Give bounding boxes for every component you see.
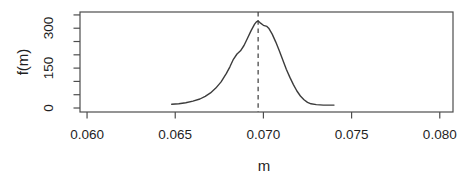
y-axis-title: f(m) bbox=[14, 49, 31, 76]
x-tick-label: 0.065 bbox=[158, 127, 192, 142]
x-tick-label: 0.075 bbox=[335, 127, 369, 142]
x-axis-title: m bbox=[258, 157, 271, 174]
x-tick-label: 0.070 bbox=[247, 127, 281, 142]
density-plot-figure: f(m) m 0.0600.0650.0700.0750.0800150300 bbox=[0, 0, 475, 178]
x-tick-label: 0.080 bbox=[423, 127, 457, 142]
y-tick-label: 300 bbox=[41, 17, 56, 40]
y-tick-label: 0 bbox=[41, 104, 56, 112]
y-tick-label: 150 bbox=[41, 57, 56, 80]
plot-canvas bbox=[0, 0, 475, 178]
x-tick-label: 0.060 bbox=[70, 127, 104, 142]
density-curve bbox=[172, 21, 334, 105]
